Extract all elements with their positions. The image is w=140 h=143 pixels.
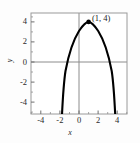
x-tick-label-neg2: -2 [53,116,67,125]
y-tick-label-neg4: -4 [12,98,27,107]
x-axis-label: x [0,128,140,137]
y-tick-label-2: 2 [14,37,27,46]
y-axis-label: y [5,54,14,68]
y-tick-label-4: 4 [14,17,27,26]
x-tick-label-4: 4 [110,116,124,125]
vertex-annotation-label: (1, 4) [92,14,110,23]
x-tick-label-neg4: -4 [34,116,48,125]
parabola-chart-figure: 4 2 0 -2 -4 -4 -2 0 2 4 x y (1, 4) [0,0,140,143]
vertex-point-marker [86,20,91,25]
x-tick-label-2: 2 [91,116,105,125]
y-tick-label-0: 0 [14,58,27,67]
x-tick-label-0: 0 [72,116,86,125]
y-tick-label-neg2: -2 [12,78,27,87]
